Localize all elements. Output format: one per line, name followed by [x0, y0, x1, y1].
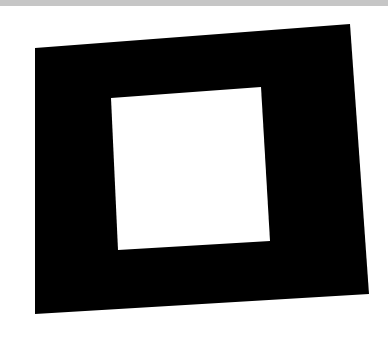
inner-white-hole — [111, 87, 270, 250]
square-frame-figure — [0, 0, 388, 338]
